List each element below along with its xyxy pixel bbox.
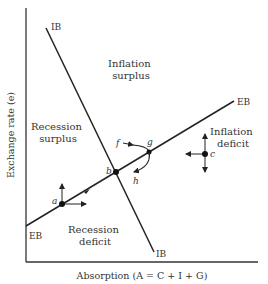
region-recession-surplus: Recession surplus [31, 121, 85, 144]
svg-text:f: f [115, 138, 121, 148]
y-axis-label: Exchange rate (e) [5, 92, 16, 178]
region-inflation-surplus: Inflation surplus [108, 58, 154, 81]
region-inflation-deficit: Inflation deficit [210, 126, 256, 149]
x-axis-label: Absorption (A = C + I + G) [76, 270, 208, 281]
svg-text:c: c [210, 149, 215, 159]
svg-text:a: a [52, 196, 57, 206]
svg-text:b: b [106, 166, 112, 176]
ib-label-top: IB [51, 22, 62, 32]
eb-label-right: EB [237, 97, 251, 107]
eb-curve [26, 101, 234, 226]
internal-external-balance-diagram: Exchange rate (e) Absorption (A = C + I … [0, 0, 268, 284]
point-c: c [186, 134, 215, 172]
svg-text:g: g [147, 137, 153, 147]
eb-label-left: EB [29, 231, 43, 241]
ib-label-bottom: IB [156, 249, 167, 259]
svg-text:h: h [133, 176, 139, 186]
region-recession-deficit: Recession deficit [68, 224, 122, 247]
point-a: a [52, 184, 90, 207]
